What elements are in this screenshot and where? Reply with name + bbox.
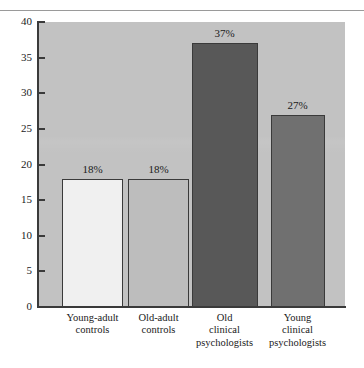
x-category-label: Young clinical psychologists (253, 312, 343, 349)
bar (128, 179, 189, 307)
y-tick-label: 30 (8, 87, 32, 98)
y-tick-mark (39, 199, 45, 201)
y-tick-mark (39, 270, 45, 272)
y-tick-label: 35 (8, 52, 32, 63)
bar-value-label: 37% (200, 28, 250, 39)
y-tick-label: 20 (8, 159, 32, 170)
y-tick-label: 0 (8, 301, 32, 312)
y-tick-label: 5 (8, 265, 32, 276)
bar-value-label: 18% (134, 164, 184, 175)
y-tick-label: 15 (8, 194, 32, 205)
bar-value-label: 18% (68, 164, 118, 175)
y-tick-label: 40 (8, 16, 32, 27)
top-divider-rule (0, 10, 364, 11)
bar (192, 43, 258, 307)
y-tick-label: 10 (8, 230, 32, 241)
y-tick-mark (39, 306, 45, 308)
y-tick-mark (39, 235, 45, 237)
chart-figure: 0510152025303540 18%18%37%27% Young-adul… (0, 0, 364, 368)
bar (271, 115, 325, 307)
y-tick-mark (39, 128, 45, 130)
y-tick-label: 25 (8, 123, 32, 134)
y-tick-mark (39, 21, 45, 23)
bar (62, 179, 123, 307)
bar-value-label: 27% (273, 100, 323, 111)
y-tick-mark (39, 92, 45, 94)
y-tick-mark (39, 57, 45, 59)
y-tick-mark (39, 164, 45, 166)
